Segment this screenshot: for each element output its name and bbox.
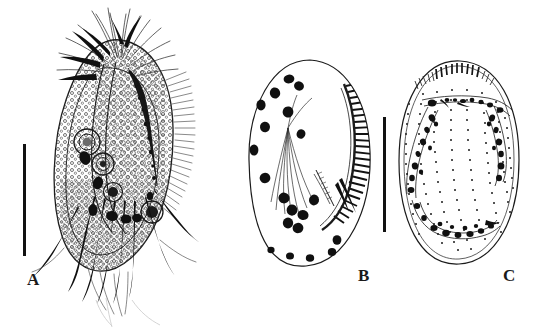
panel-label-a: A: [27, 270, 40, 290]
scale-bar-panel-a: [23, 144, 26, 256]
panel-b-muscle-scars: [250, 74, 342, 262]
figure-plate: A B C: [0, 0, 540, 328]
panel-b-drawing: [249, 60, 373, 266]
panel-a-faint-wisp: [96, 298, 160, 327]
panel-c-ventral-band: [412, 200, 500, 239]
panel-label-c: C: [503, 266, 516, 286]
panel-a-drawing: [32, 8, 200, 327]
panel-c-valve-outline-inner: [404, 66, 514, 259]
panel-c-drawing: [399, 61, 519, 264]
illustration-canvas: [0, 0, 540, 328]
panel-label-b: B: [358, 266, 370, 286]
panel-c-dorsal-comb: [436, 63, 479, 79]
scale-bar-panels-bc: [383, 117, 386, 232]
panel-c-left-band: [407, 107, 439, 198]
